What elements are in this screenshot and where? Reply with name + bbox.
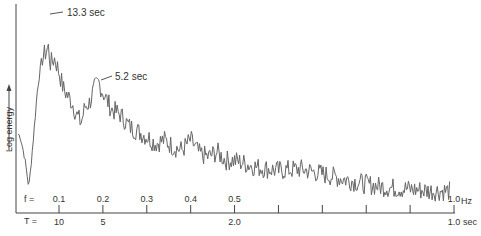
f-tick-label: 0.1 xyxy=(53,194,66,204)
f-unit: Hz xyxy=(461,196,472,206)
x-axis-ticks: f =T =0.1100.250.30.40.52.01.01.0Hzsec xyxy=(24,194,478,227)
f-prefix: f = xyxy=(24,194,34,204)
spectrum-chart: Log energy f =T =0.1100.250.30.40.52.01.… xyxy=(0,0,481,236)
f-tick-label: 0.3 xyxy=(141,194,154,204)
t-tick-label: 1.0 xyxy=(448,217,461,227)
t-tick-label: 5 xyxy=(100,217,105,227)
f-tick-label: 0.4 xyxy=(184,194,197,204)
annotation-label: 13.3 sec xyxy=(67,7,105,18)
t-tick-label: 10 xyxy=(54,217,64,227)
f-tick-label: 0.5 xyxy=(228,194,241,204)
t-tick-label: 2.0 xyxy=(228,217,241,227)
f-tick-label: 1.0 xyxy=(448,194,461,204)
arrow-up-icon xyxy=(7,84,12,91)
spectrum-line xyxy=(18,44,450,201)
t-unit: sec xyxy=(463,217,478,227)
y-axis-title: Log energy xyxy=(4,106,14,152)
y-axis-label: Log energy xyxy=(4,84,14,152)
annotation-label: 5.2 sec xyxy=(115,71,147,82)
f-tick-label: 0.2 xyxy=(97,194,110,204)
annotation-5-2-sec: 5.2 sec xyxy=(101,71,147,82)
annotation-13-3-sec: 13.3 sec xyxy=(50,7,105,18)
t-prefix: T = xyxy=(24,216,37,226)
